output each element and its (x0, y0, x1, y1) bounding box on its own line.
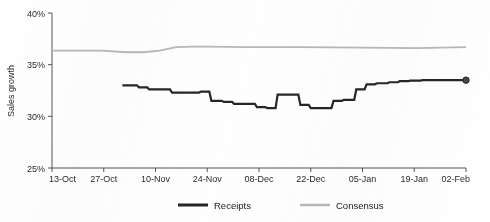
series-layer (52, 47, 469, 108)
x-tick-label: 08-Dec (244, 174, 274, 184)
x-axis-tick-labels: 13-Oct27-Oct10-Nov24-Nov08-Dec22-Dec05-J… (49, 174, 470, 184)
y-tick-label: 40% (27, 9, 45, 19)
y-tick-label: 35% (27, 60, 45, 70)
x-tick-label: 24-Nov (193, 174, 223, 184)
x-tick-label: 02-Feb (441, 174, 470, 184)
legend-label-consensus: Consensus (336, 200, 384, 211)
sales-growth-line-chart: 25%30%35%40% 13-Oct27-Oct10-Nov24-Nov08-… (0, 0, 490, 222)
chart-legend: ReceiptsConsensus (178, 200, 384, 211)
x-axis-ticks (52, 168, 466, 172)
x-tick-label: 22-Dec (296, 174, 326, 184)
legend-label-receipts: Receipts (214, 200, 251, 211)
y-axis-title: Sales growth (6, 65, 16, 117)
x-tick-label: 05-Jan (349, 174, 377, 184)
x-tick-label: 13-Oct (49, 174, 77, 184)
series-line-receipts (122, 80, 466, 108)
y-tick-label: 25% (27, 164, 45, 174)
x-tick-label: 27-Oct (90, 174, 118, 184)
y-axis-ticks (48, 13, 52, 168)
x-tick-label: 10-Nov (141, 174, 171, 184)
series-line-consensus (52, 47, 466, 53)
series-end-marker-receipts (463, 77, 469, 83)
x-tick-label: 19-Jan (400, 174, 428, 184)
y-axis-tick-labels: 25%30%35%40% (27, 9, 45, 174)
y-tick-label: 30% (27, 112, 45, 122)
chart-container: 25%30%35%40% 13-Oct27-Oct10-Nov24-Nov08-… (0, 0, 490, 222)
